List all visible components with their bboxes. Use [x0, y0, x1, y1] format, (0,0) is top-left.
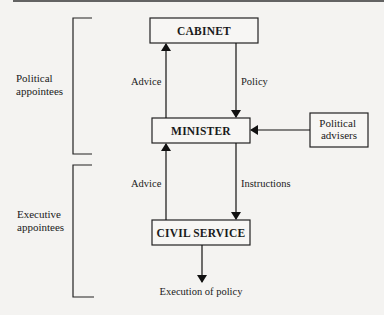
advice-label-lower: Advice — [131, 178, 162, 189]
civil-service-label: CIVIL SERVICE — [157, 227, 246, 239]
execution-of-policy-label: Execution of policy — [160, 286, 244, 297]
cabinet-label: CABINET — [177, 25, 231, 37]
executive-appointees-label: Executive appointees — [17, 208, 64, 233]
political-appointees-label: Political appointees — [16, 72, 63, 97]
civil-service-node: CIVIL SERVICE — [152, 220, 250, 245]
minister-label: MINISTER — [171, 125, 231, 137]
minister-node: MINISTER — [152, 118, 250, 143]
diagram-canvas: Political appointees Executive appointee… — [0, 0, 384, 315]
political-appointees-bracket — [73, 18, 92, 154]
political-advisers-node: Political advisers — [310, 113, 368, 147]
instructions-label: Instructions — [241, 178, 291, 189]
policy-label: Policy — [241, 76, 269, 87]
cabinet-node: CABINET — [150, 18, 258, 43]
executive-appointees-bracket — [73, 165, 94, 297]
advice-label-upper: Advice — [131, 76, 162, 87]
political-advisers-label: Political advisers — [319, 117, 358, 141]
